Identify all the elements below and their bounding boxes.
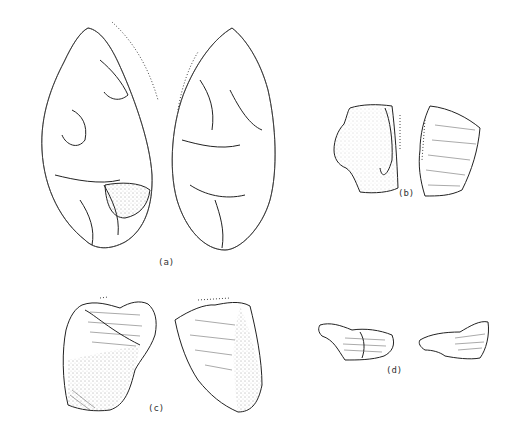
artifact-c-face-1 bbox=[63, 297, 156, 411]
artifact-drawing: (a) (b) (c) (d) bbox=[0, 0, 516, 436]
artifact-b-face-1 bbox=[334, 105, 400, 193]
label-b: (b) bbox=[398, 188, 414, 198]
label-c: (c) bbox=[148, 403, 164, 413]
label-d: (d) bbox=[386, 365, 402, 375]
artifact-d-face-1 bbox=[319, 324, 394, 360]
artifact-b-face-2 bbox=[419, 106, 480, 196]
artifact-d-face-2 bbox=[419, 322, 488, 359]
artifact-c-face-2 bbox=[175, 298, 262, 412]
artifact-a-face-2 bbox=[172, 28, 275, 250]
label-a: (a) bbox=[158, 257, 174, 267]
artifact-a-face-1 bbox=[42, 22, 158, 248]
